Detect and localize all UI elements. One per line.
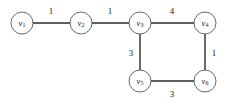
weighted-graph-figure: v1v2v3v4v5v6 114313 — [0, 0, 226, 103]
graph-node-v4: v4 — [194, 12, 216, 34]
node-label-subscript-v6: 6 — [205, 80, 208, 86]
graph-node-v6: v6 — [194, 70, 216, 92]
graph-canvas: v1v2v3v4v5v6 114313 — [0, 0, 226, 103]
graph-node-v3: v3 — [129, 12, 151, 34]
edge-weight-label-v3-v5: 3 — [129, 48, 134, 58]
edge-layer — [33, 23, 205, 81]
node-label-subscript-v5: 5 — [140, 80, 143, 86]
node-label-subscript-v4: 4 — [205, 22, 208, 28]
graph-node-v5: v5 — [129, 70, 151, 92]
node-label-subscript-v3: 3 — [140, 22, 143, 28]
graph-node-v2: v2 — [70, 12, 92, 34]
edge-weight-label-v5-v6: 3 — [170, 89, 175, 99]
graph-node-v1: v1 — [11, 12, 33, 34]
node-layer: v1v2v3v4v5v6 — [11, 12, 216, 92]
node-label-subscript-v2: 2 — [81, 22, 84, 28]
edge-weight-label-v1-v2: 1 — [49, 6, 54, 16]
node-label-subscript-v1: 1 — [22, 22, 25, 28]
edge-weight-label-v4-v6: 1 — [212, 48, 217, 58]
edge-weight-label-v2-v3: 1 — [108, 6, 113, 16]
edge-weight-label-v3-v4: 4 — [170, 6, 175, 16]
